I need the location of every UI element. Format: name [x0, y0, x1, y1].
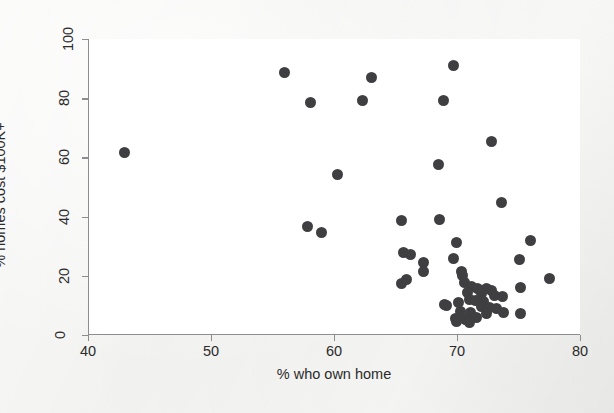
x-axis-tick-label: 80 — [572, 343, 588, 359]
x-axis-tick — [334, 335, 335, 341]
plot-region — [88, 39, 580, 335]
y-axis-tick-label: 100 — [60, 27, 76, 51]
scatter-point — [486, 136, 497, 147]
scatter-point — [481, 308, 492, 319]
scatter-point — [525, 235, 536, 246]
scatter-point — [332, 169, 343, 180]
scatter-point — [515, 308, 526, 319]
y-axis-tick — [82, 276, 88, 277]
x-axis-tick-label: 50 — [203, 343, 219, 359]
plot-surface: My Title % who own home % homes cost $10… — [0, 0, 614, 413]
scatter-point — [544, 273, 555, 284]
y-axis-tick-label: 80 — [56, 90, 72, 106]
scatter-point — [496, 197, 507, 208]
scatter-point — [418, 266, 429, 277]
y-axis-tick — [82, 39, 88, 40]
x-axis-tick — [88, 335, 89, 341]
y-axis-tick — [82, 335, 88, 336]
scatter-point — [498, 307, 509, 318]
scatter-point — [451, 237, 462, 248]
scatter-point — [451, 316, 462, 327]
x-axis-tick-label: 60 — [326, 343, 342, 359]
scatter-point — [366, 72, 377, 83]
scatter-data-layer — [89, 39, 580, 334]
scatter-plot-screenshot: My Title % who own home % homes cost $10… — [0, 0, 614, 413]
scatter-point — [515, 282, 526, 293]
y-axis-tick — [82, 217, 88, 218]
scatter-point — [433, 159, 444, 170]
x-axis-tick-label: 40 — [80, 343, 96, 359]
scatter-point — [497, 291, 508, 302]
y-axis-tick — [82, 98, 88, 99]
scatter-point — [396, 278, 407, 289]
y-axis-tick-label: 20 — [56, 268, 72, 284]
scatter-point — [441, 300, 452, 311]
y-axis-tick — [82, 157, 88, 158]
x-axis-tick — [580, 335, 581, 341]
scatter-point — [405, 249, 416, 260]
scatter-point — [464, 317, 475, 328]
scatter-point — [119, 147, 130, 158]
scatter-point — [438, 95, 449, 106]
y-axis-title: % homes cost $100K+ — [0, 65, 8, 325]
scatter-point — [305, 97, 316, 108]
scatter-point — [316, 227, 327, 238]
scatter-point — [302, 221, 313, 232]
scatter-point — [448, 60, 459, 71]
y-axis-tick-label: 60 — [56, 149, 72, 165]
scatter-point — [357, 95, 368, 106]
scatter-point — [434, 214, 445, 225]
scatter-point — [448, 253, 459, 264]
y-axis-tick-label: 40 — [56, 209, 72, 225]
x-axis-tick — [211, 335, 212, 341]
scatter-point — [514, 254, 525, 265]
x-axis-tick — [457, 335, 458, 341]
scatter-point — [396, 215, 407, 226]
y-axis-tick-label: 0 — [52, 331, 68, 339]
scatter-point — [279, 67, 290, 78]
x-axis-title: % who own home — [88, 366, 580, 382]
x-axis-tick-label: 70 — [449, 343, 465, 359]
